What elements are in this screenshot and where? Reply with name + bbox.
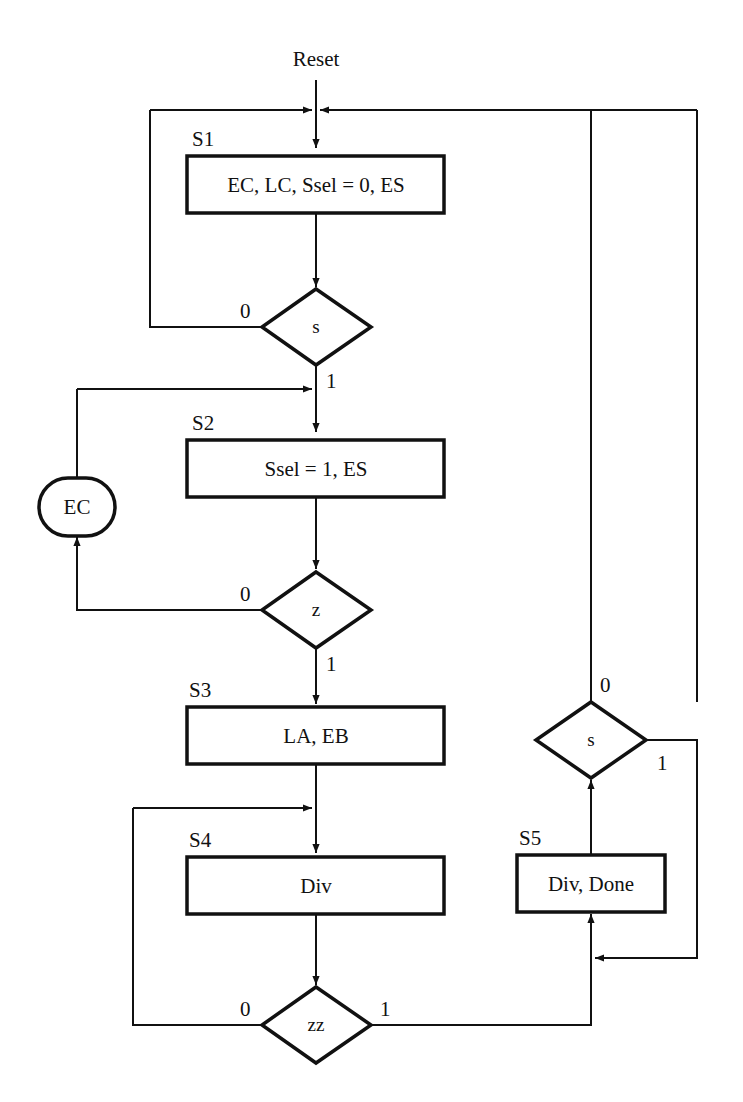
decision-d1-condition: s bbox=[312, 316, 319, 337]
state-label-s4: S4 bbox=[189, 828, 212, 852]
state-label-s3: S3 bbox=[189, 678, 211, 702]
reset-label: Reset bbox=[293, 47, 340, 71]
decision-d1-false: 0 bbox=[240, 299, 251, 323]
state-actions-s3: LA, EB bbox=[283, 724, 348, 748]
decision-d3-condition: zz bbox=[308, 1014, 325, 1035]
decision-d1-true: 1 bbox=[326, 369, 337, 393]
state-actions-s2: Ssel = 1, ES bbox=[265, 457, 368, 481]
state-actions-s1: EC, LC, Ssel = 0, ES bbox=[227, 173, 405, 197]
d4-to-s5 bbox=[595, 740, 697, 958]
decision-d3-true: 1 bbox=[380, 997, 391, 1021]
decision-d4-false: 0 bbox=[600, 673, 611, 697]
decision-d2-condition: z bbox=[312, 599, 320, 620]
state-label-s1: S1 bbox=[192, 127, 214, 151]
conditional-output-ec-label: EC bbox=[64, 495, 91, 519]
decision-d2-true: 1 bbox=[326, 652, 337, 676]
decision-d3-false: 0 bbox=[240, 997, 251, 1021]
d2-to-ec bbox=[77, 537, 262, 610]
decision-d4-condition: s bbox=[587, 729, 594, 750]
asm-chart: Reset S1 EC, LC, Ssel = 0, ES S2 Ssel = … bbox=[0, 0, 743, 1102]
state-actions-s5: Div, Done bbox=[548, 872, 634, 896]
decision-d4-true: 1 bbox=[657, 751, 668, 775]
d3-to-s5 bbox=[371, 914, 591, 1025]
decision-d2-false: 0 bbox=[240, 582, 251, 606]
state-actions-s4: Div bbox=[300, 874, 332, 898]
state-label-s2: S2 bbox=[192, 411, 214, 435]
state-label-s5: S5 bbox=[519, 826, 541, 850]
